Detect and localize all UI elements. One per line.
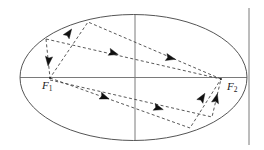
arrow-up-right-to-top xyxy=(63,27,74,39)
focus-f2-dot xyxy=(220,78,222,80)
arrow-up-to-f2-outer xyxy=(212,93,221,104)
ray-paths-group xyxy=(46,22,221,128)
arrow-right-upper-inner xyxy=(108,48,119,58)
arrow-down-to-f1-glyph xyxy=(44,56,52,66)
figure-canvas xyxy=(0,0,264,150)
arrow-right-lower-outer xyxy=(153,103,164,113)
focus-f1-subscript: 1 xyxy=(49,84,53,93)
focus-f2-subscript: 2 xyxy=(234,85,238,94)
ellipse-figure: F1 F2 xyxy=(0,0,264,150)
focus-label-f1: F1 xyxy=(42,80,52,91)
ray-path-upper xyxy=(46,22,221,79)
focus-f1-dot xyxy=(49,77,51,79)
arrow-heads-group xyxy=(44,27,220,113)
arrow-down-to-f1 xyxy=(44,56,52,66)
arrow-right-lower-outer-glyph xyxy=(153,103,164,113)
focus-label-f2: F2 xyxy=(227,81,237,92)
ray-path-upper-secondary xyxy=(46,39,221,79)
arrow-up-right-to-top-glyph xyxy=(63,27,74,39)
arrow-right-upper-outer xyxy=(165,54,176,63)
arrow-up-to-f2-outer-glyph xyxy=(212,93,221,104)
arrow-right-upper-outer-glyph xyxy=(165,54,176,63)
arrow-right-upper-inner-glyph xyxy=(108,48,119,58)
